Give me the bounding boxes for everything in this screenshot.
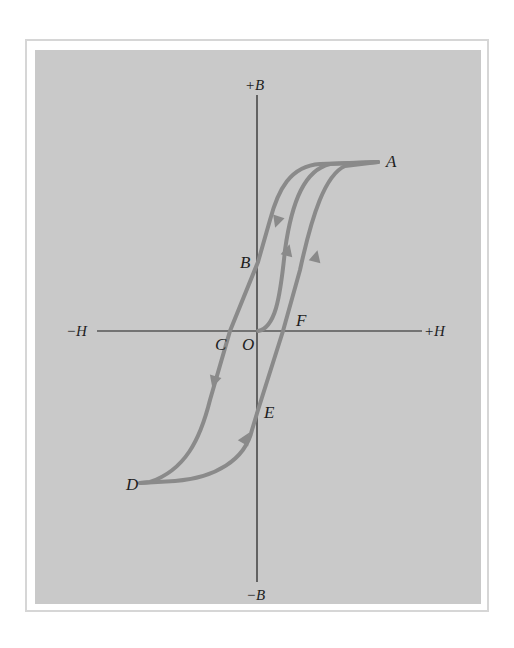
point-b-label: B [240,253,251,272]
hysteresis-curve [140,162,378,483]
label-plus-b: +B [245,77,264,93]
point-e-label: E [263,403,275,422]
point-a-label: A [385,152,397,171]
ascending-branch [140,162,378,483]
arrow-up-icon [309,249,324,264]
point-c-label: C [215,335,227,354]
descending-branch [140,162,378,483]
point-o-label: O [242,335,254,354]
label-plus-h: +H [424,323,446,339]
point-f-label: F [295,311,307,330]
hysteresis-diagram: +B −B +H −H A B C O F E D [0,0,514,648]
initial-magnetization-curve [258,162,378,331]
label-minus-b: −B [246,587,265,603]
label-minus-h: −H [66,323,88,339]
point-d-label: D [125,475,139,494]
